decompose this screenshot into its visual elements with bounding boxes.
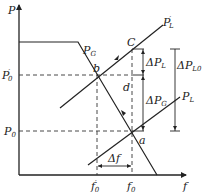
f0-label: f0 bbox=[126, 180, 136, 194]
p0-label: P0 bbox=[3, 125, 16, 139]
point-c: C bbox=[127, 36, 136, 49]
diagram-svg: P f PG P′L PL b C d a P′0 P0 f′0 f0 ΔPL … bbox=[0, 0, 208, 195]
delta-f-label: Δf bbox=[107, 152, 122, 165]
direction-arrow-on-load bbox=[114, 55, 119, 60]
x-axis-label: f bbox=[182, 180, 189, 193]
delta-pl0-label: ΔPL0 bbox=[176, 59, 202, 73]
f0-prime-label: f′0 bbox=[90, 179, 100, 194]
generator-curve bbox=[19, 42, 157, 175]
pl-label: PL bbox=[181, 90, 194, 104]
y-axis-label: P bbox=[7, 4, 16, 17]
delta-pl-label: ΔPL bbox=[145, 56, 166, 70]
delta-pg-label: ΔPG bbox=[145, 94, 167, 108]
point-a: a bbox=[139, 134, 146, 147]
point-b: b bbox=[93, 62, 100, 75]
pg-label: PG bbox=[82, 44, 96, 58]
point-d: d bbox=[123, 81, 130, 94]
p0-prime-label: P′0 bbox=[1, 68, 13, 83]
power-frequency-diagram: P f PG P′L PL b C d a P′0 P0 f′0 f0 ΔPL … bbox=[0, 0, 208, 195]
pl-prime-label: P′L bbox=[162, 15, 174, 30]
